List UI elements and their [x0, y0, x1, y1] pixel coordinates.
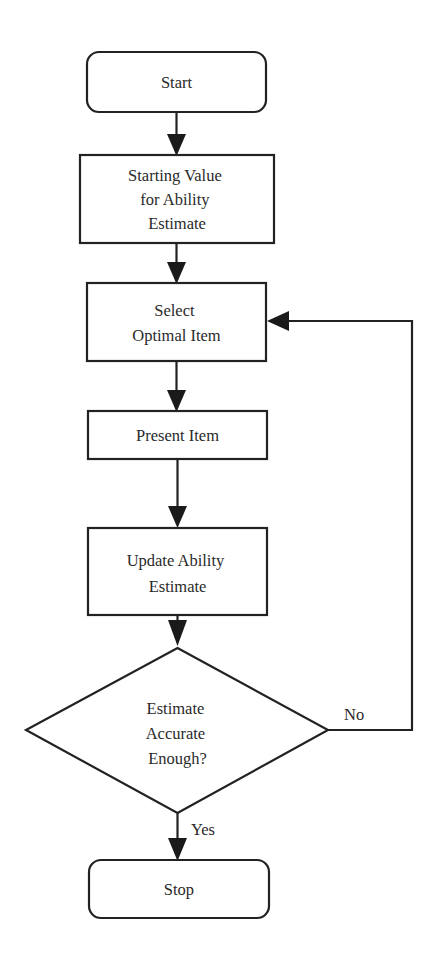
edge-decision-yes-to-stop: Yes — [168, 813, 215, 861]
edge-select-item-to-present-item — [167, 361, 186, 412]
flowchart-diagram: Start Starting Value for Ability Estimat… — [0, 0, 439, 961]
node-decision: Estimate Accurate Enough? — [26, 648, 328, 813]
node-stop-label: Stop — [164, 880, 194, 899]
arrow-down-icon — [168, 506, 187, 528]
arrow-down-icon — [167, 390, 186, 412]
node-present-item-label: Present Item — [136, 426, 219, 445]
edge-start-to-starting-value — [167, 112, 186, 156]
edge-decision-no-to-select-item: No — [267, 311, 412, 730]
arrow-left-icon — [267, 311, 289, 331]
process-box — [88, 528, 267, 615]
node-present-item: Present Item — [88, 411, 267, 459]
edge-starting-value-to-select-item — [167, 243, 186, 284]
node-starting-value: Starting Value for Ability Estimate — [80, 155, 274, 243]
node-update-estimate: Update Ability Estimate — [88, 528, 267, 615]
process-box — [87, 283, 266, 361]
edge-label-yes: Yes — [191, 820, 215, 839]
node-decision-label: Estimate Accurate Enough? — [146, 699, 210, 768]
edge-label-no: No — [344, 705, 364, 724]
arrow-down-icon — [167, 262, 186, 284]
node-select-item: Select Optimal Item — [87, 283, 266, 361]
arrow-down-icon — [168, 620, 187, 646]
arrow-down-icon — [168, 838, 187, 861]
node-stop: Stop — [89, 860, 269, 918]
edge-update-estimate-to-decision — [168, 615, 187, 646]
arrow-down-icon — [167, 134, 186, 156]
node-start: Start — [87, 52, 266, 112]
node-start-label: Start — [161, 73, 193, 92]
edge-present-item-to-update-estimate — [168, 459, 187, 528]
